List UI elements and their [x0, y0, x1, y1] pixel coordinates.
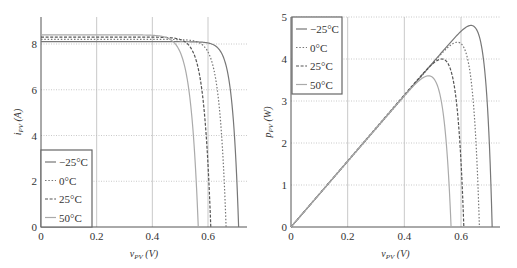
y-tick-label: 0	[32, 221, 38, 233]
y-tick-label: 4	[32, 130, 38, 142]
chart-canvas: 00.20.40.602468vPV (V)iPV (A)−25°C0°C25°…	[0, 0, 517, 268]
y-axis-label: iPV (A)	[12, 108, 25, 135]
y-tick-label: 5	[282, 11, 288, 23]
x-axis-label: vPV (V)	[381, 248, 410, 261]
x-tick-label: 0.2	[90, 230, 104, 242]
x-tick-label: 0	[38, 230, 44, 242]
iv-curve-plot: 00.20.40.602468vPV (V)iPV (A)−25°C0°C25°…	[12, 17, 247, 261]
x-axis-label: vPV (V)	[130, 248, 159, 261]
legend-label: 25°C	[59, 193, 82, 205]
legend-label: 50°C	[310, 79, 333, 91]
legend-label: 0°C	[59, 175, 76, 187]
x-tick-label: 0.6	[201, 230, 215, 242]
x-tick-label: 0.4	[145, 230, 159, 242]
y-tick-label: 1	[282, 179, 288, 191]
x-tick-label: 0	[288, 230, 294, 242]
legend-label: −25°C	[59, 156, 88, 168]
legend-label: 50°C	[59, 212, 82, 224]
y-tick-label: 2	[282, 137, 288, 149]
y-tick-label: 4	[282, 53, 288, 65]
y-tick-label: 2	[32, 175, 38, 187]
x-tick-label: 0.6	[454, 230, 468, 242]
x-tick-label: 0.2	[341, 230, 355, 242]
x-tick-label: 0.4	[397, 230, 411, 242]
legend-label: −25°C	[310, 23, 339, 35]
pv-curve-plot: 00.20.40.6012345vPV (V)pPV (W)−25°C0°C25…	[262, 11, 500, 261]
legend-label: 0°C	[310, 42, 327, 54]
y-axis-label: pPV (W)	[262, 106, 275, 139]
y-tick-label: 0	[282, 221, 288, 233]
y-tick-label: 3	[282, 95, 288, 107]
legend-label: 25°C	[310, 60, 333, 72]
pv-curve-3	[291, 76, 451, 227]
y-tick-label: 6	[32, 84, 38, 96]
y-tick-label: 8	[32, 38, 38, 50]
